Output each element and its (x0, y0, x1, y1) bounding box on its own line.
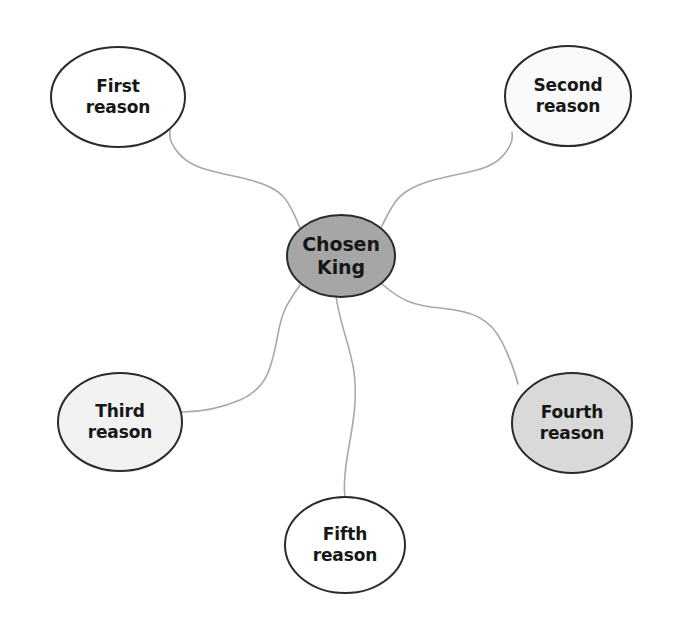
node-chosen-king[interactable] (287, 215, 395, 297)
node-second-reason[interactable] (505, 46, 631, 146)
link-center-fifth (336, 296, 355, 497)
node-third-reason[interactable] (58, 373, 182, 471)
link-center-third (182, 285, 300, 412)
link-center-first (170, 130, 300, 228)
mind-map-svg (0, 0, 675, 617)
link-center-fourth (382, 284, 518, 384)
link-center-second (381, 132, 512, 228)
node-fifth-reason[interactable] (285, 497, 405, 593)
connector-group (170, 130, 518, 497)
node-first-reason[interactable] (51, 47, 185, 147)
node-fourth-reason[interactable] (512, 373, 632, 473)
mind-map-canvas: ChosenKingFirstreasonSecondreasonThirdre… (0, 0, 675, 617)
